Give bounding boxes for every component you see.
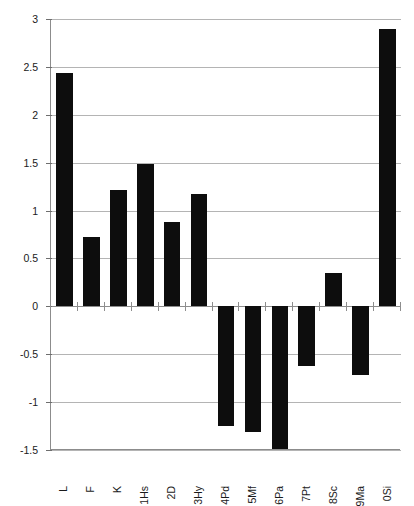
y-tick-mark bbox=[46, 402, 52, 403]
y-tick-mark bbox=[46, 211, 52, 212]
x-tick-label: L bbox=[58, 486, 69, 492]
bar bbox=[191, 194, 208, 306]
bar bbox=[137, 164, 154, 307]
gridline bbox=[51, 19, 401, 20]
x-tick-label: 8Sc bbox=[328, 486, 339, 504]
x-tick-label: F bbox=[85, 486, 96, 492]
y-tick-label: 1.5 bbox=[23, 157, 38, 169]
x-tick-label: 2D bbox=[166, 486, 177, 499]
x-tick-mark bbox=[50, 302, 51, 311]
y-tick-label: 0 bbox=[32, 300, 38, 312]
y-tick-mark bbox=[46, 258, 52, 259]
y-tick-label: -1.5 bbox=[20, 444, 38, 456]
plot-area bbox=[50, 19, 400, 450]
x-tick-label: 9Ma bbox=[355, 486, 366, 506]
x-tick-mark bbox=[77, 302, 78, 311]
y-tick-label: 2 bbox=[32, 109, 38, 121]
bar bbox=[110, 190, 127, 306]
x-tick-mark bbox=[212, 302, 213, 311]
x-tick-label: 3Hy bbox=[193, 486, 204, 505]
y-axis-labels: 32.521.510.50-0.5-1-1.5 bbox=[0, 19, 46, 450]
x-tick-label: 5Mf bbox=[247, 486, 258, 504]
y-tick-mark bbox=[46, 19, 52, 20]
y-tick-label: 1 bbox=[32, 205, 38, 217]
x-tick-label: 1Hs bbox=[139, 486, 150, 505]
y-tick-label: -1 bbox=[29, 396, 38, 408]
y-tick-mark bbox=[46, 163, 52, 164]
y-tick-mark bbox=[46, 450, 52, 451]
x-tick-mark bbox=[238, 302, 239, 311]
bar bbox=[218, 306, 235, 426]
x-tick-label: 4Pd bbox=[220, 486, 231, 505]
x-tick-mark bbox=[185, 302, 186, 311]
x-tick-mark bbox=[292, 302, 293, 311]
x-tick-mark bbox=[346, 302, 347, 311]
y-tick-label: 3 bbox=[32, 13, 38, 25]
gridline bbox=[51, 450, 401, 451]
gridline bbox=[51, 211, 401, 212]
x-tick-mark bbox=[158, 302, 159, 311]
y-tick-label: 2.5 bbox=[23, 61, 38, 73]
x-tick-mark bbox=[319, 302, 320, 311]
x-tick-mark bbox=[400, 302, 401, 311]
bar bbox=[272, 306, 289, 449]
y-tick-mark bbox=[46, 115, 52, 116]
bar bbox=[352, 306, 369, 375]
x-tick-label: K bbox=[112, 486, 123, 493]
x-tick-mark bbox=[373, 302, 374, 311]
y-tick-mark bbox=[46, 354, 52, 355]
x-tick-mark bbox=[104, 302, 105, 311]
x-tick-label: 0Si bbox=[382, 486, 393, 501]
y-tick-label: 0.5 bbox=[23, 252, 38, 264]
gridline bbox=[51, 163, 401, 164]
gridline bbox=[51, 115, 401, 116]
gridline bbox=[51, 258, 401, 259]
y-tick-mark bbox=[46, 67, 52, 68]
gridline bbox=[51, 67, 401, 68]
x-tick-label: 6Pa bbox=[274, 486, 285, 505]
bar bbox=[83, 237, 100, 306]
bar bbox=[298, 306, 315, 365]
bar bbox=[379, 29, 396, 307]
x-tick-mark bbox=[265, 302, 266, 311]
x-tick-label: 7Pt bbox=[301, 486, 312, 502]
x-axis-ticks bbox=[50, 302, 400, 312]
bar bbox=[164, 222, 181, 306]
y-tick-label: -0.5 bbox=[20, 348, 38, 360]
bar bbox=[56, 73, 73, 307]
x-tick-mark bbox=[131, 302, 132, 311]
x-axis-labels: LFK1Hs2D3Hy4Pd5Mf6Pa7Pt8Sc9Ma0Si bbox=[50, 452, 400, 491]
bar bbox=[245, 306, 262, 431]
